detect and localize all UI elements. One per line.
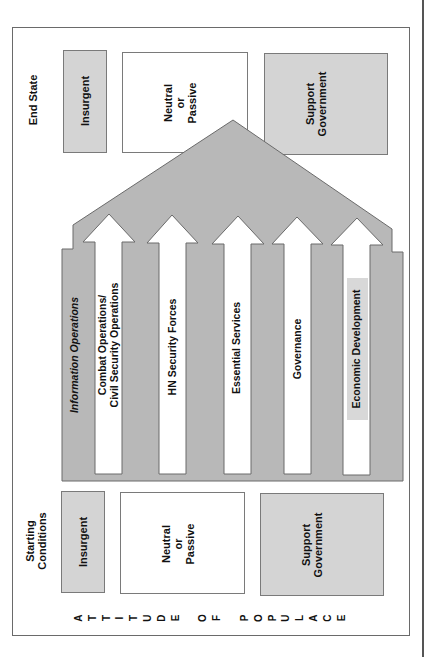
loo-combat-label: Combat Operations/ Civil Security Operat…: [97, 283, 120, 408]
starting-conditions-title: Starting Conditions: [24, 512, 48, 569]
start-insurgent-label: Insurgent: [77, 517, 89, 567]
loo-essential-services-label: Essential Services: [231, 302, 243, 394]
information-operations-label: Information Operations: [69, 297, 81, 413]
loo-governance-label: Governance: [292, 319, 304, 380]
start-neutral-label: Neutral or Passive: [160, 524, 196, 565]
attitude-of-populace-axis: A T T I T U D E O F P O P U L A C E: [75, 611, 347, 625]
start-support-label: Support Government: [300, 513, 324, 578]
loo-hn-security-label: HN Security Forces: [167, 299, 179, 396]
loo-economic-label: Economic Development: [351, 289, 363, 408]
